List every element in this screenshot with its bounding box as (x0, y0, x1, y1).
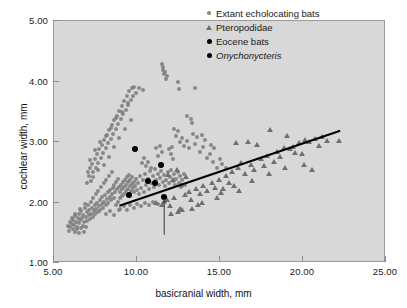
x-tick-label: 20.00 (290, 266, 314, 277)
x-tick-label: 25.00 (373, 266, 397, 277)
black-circle-icon (207, 53, 212, 58)
legend-label: Extant echolocating bats (216, 8, 320, 19)
legend-item-4[interactable]: Onychonycteris (202, 48, 377, 62)
legend-label: Pteropodidae (216, 22, 273, 33)
chart-legend: Extant echolocating batsPteropodidaeEoce… (202, 6, 377, 62)
onychonycteris-arrow (162, 198, 167, 234)
x-tick-label: 15.00 (207, 266, 231, 277)
x-tick (385, 256, 386, 262)
scatter-plot-figure: 5.0010.0015.0020.0025.00 1.002.003.004.0… (0, 0, 407, 308)
black-circle-icon (207, 39, 212, 44)
legend-label: Eocene bats (216, 36, 269, 47)
x-tick-label: 5.00 (44, 266, 63, 277)
legend-marker-icon (202, 39, 216, 44)
legend-label: Onychonycteris (216, 50, 281, 61)
legend-item-3[interactable]: Eocene bats (202, 34, 377, 48)
legend-marker-icon (202, 11, 216, 15)
y-tick (53, 262, 59, 263)
gray-triangle-icon (206, 25, 212, 30)
y-axis-title: cochlear width, mm (18, 72, 29, 222)
y-tick-label: 1.00 (15, 257, 48, 268)
legend-marker-icon (202, 25, 216, 30)
x-tick-label: 10.00 (124, 266, 148, 277)
y-tick-label: 5.00 (15, 15, 48, 26)
legend-marker-icon (202, 53, 216, 58)
small-gray-circle-icon (207, 11, 211, 15)
legend-item-2[interactable]: Pteropodidae (202, 20, 377, 34)
x-axis-title: basicranial width, mm (0, 288, 407, 299)
legend-item-1[interactable]: Extant echolocating bats (202, 6, 377, 20)
